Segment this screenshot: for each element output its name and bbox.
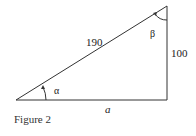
alpha-label: α bbox=[54, 85, 60, 96]
beta-arc bbox=[155, 14, 167, 20]
beta-label: β bbox=[150, 28, 155, 39]
hypotenuse-label: 190 bbox=[86, 36, 103, 48]
triangle bbox=[16, 6, 167, 100]
alpha-arrowhead bbox=[41, 85, 45, 89]
adjacent-label: a bbox=[105, 103, 111, 115]
opposite-label: 100 bbox=[171, 47, 188, 59]
figure-caption: Figure 2 bbox=[14, 113, 51, 125]
